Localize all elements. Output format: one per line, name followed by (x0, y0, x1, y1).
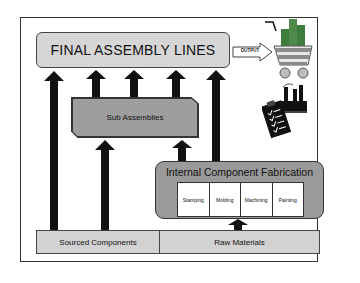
process-painting: Painting (273, 183, 304, 216)
final-assembly-label: FINAL ASSEMBLY LINES (51, 42, 216, 58)
internal-fabrication-box: Internal Component Fabrication Stamping … (155, 161, 324, 219)
arrow-sourced-to-final (44, 71, 64, 230)
process-molding: Molding (210, 183, 242, 216)
raw-materials-label: Raw Materials (214, 238, 265, 247)
arrow-sub-to-final-2 (124, 70, 144, 97)
arrow-fabrication-to-final (206, 70, 226, 162)
sub-assemblies-box: Sub Assemblies (72, 98, 198, 137)
process-machining: Machining (241, 183, 273, 216)
arrow-sub-to-final-1 (86, 70, 106, 97)
arrow-sourced-to-sub (95, 140, 115, 230)
clipboard-checklist-icon (262, 97, 292, 141)
final-assembly-lines-box: FINAL ASSEMBLY LINES (36, 32, 230, 68)
fabrication-process-list: Stamping Molding Machining Painting (177, 182, 304, 217)
process-stamping: Stamping (178, 183, 210, 216)
raw-materials-box: Raw Materials (159, 230, 320, 254)
shopping-cart-icon (264, 17, 316, 81)
internal-fabrication-title: Internal Component Fabrication (156, 166, 323, 178)
arrow-sub-to-final-3 (166, 70, 186, 97)
output-label: OUTPUT (236, 48, 264, 53)
sub-assemblies-label: Sub Assemblies (107, 113, 164, 122)
arrow-raw-to-fabrication (228, 219, 248, 230)
sourced-components-box: Sourced Components (36, 230, 160, 254)
arrow-fabrication-to-sub (172, 140, 192, 161)
sourced-components-label: Sourced Components (59, 238, 136, 247)
